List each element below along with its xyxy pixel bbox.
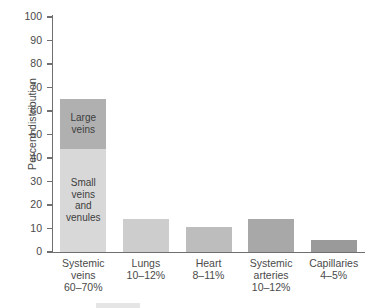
x-axis-label-line: arteries xyxy=(236,270,307,282)
y-axis-tick-label: 100 xyxy=(12,11,42,22)
bar-segment xyxy=(123,219,169,252)
bar-segment: Smallveinsandvenules xyxy=(60,149,106,252)
x-axis-label-line: 60–70% xyxy=(48,282,119,294)
y-axis-tick-label: 0 xyxy=(12,246,42,257)
bar-segment-label: Smallveinsandvenules xyxy=(66,177,100,223)
x-axis-label-heart: Heart8–11% xyxy=(173,258,244,282)
x-axis-label-line: 4–5% xyxy=(298,270,369,282)
bar-segment-label-line: and xyxy=(66,200,100,212)
bar-segment xyxy=(248,219,294,252)
x-axis-label-line: 10–12% xyxy=(111,270,182,282)
bar-systemic-arteries xyxy=(248,219,294,252)
bar-heart xyxy=(186,227,232,252)
x-axis-label-line: veins xyxy=(48,270,119,282)
x-axis-line xyxy=(52,252,365,253)
x-axis-label-line: 8–11% xyxy=(173,270,244,282)
bar-segment-label-line: venules xyxy=(66,212,100,224)
bar-segment-label-line: veins xyxy=(71,124,97,136)
y-axis-tick-label: 50 xyxy=(12,129,42,140)
bar-segment-label-line: Large xyxy=(71,112,97,124)
bar-segment: Largeveins xyxy=(60,99,106,148)
y-axis-tick-label: 40 xyxy=(12,152,42,163)
bar-segment-label-line: Small xyxy=(66,177,100,189)
bar-segment xyxy=(311,240,357,252)
x-axis-category-labels: Systemicveins60–70%Lungs10–12%Heart8–11%… xyxy=(52,258,365,304)
bar-capillaries xyxy=(311,240,357,252)
percent-distribution-bar-chart: Percent distribution 0102030405060708090… xyxy=(0,0,373,308)
y-axis-tick-label: 10 xyxy=(12,223,42,234)
x-axis-label-line: 10–12% xyxy=(236,282,307,294)
bar-systemic-veins: SmallveinsandvenulesLargeveins xyxy=(60,99,106,252)
y-axis-tick-label: 70 xyxy=(12,82,42,93)
bar-lungs xyxy=(123,219,169,252)
bar-segment-label: Largeveins xyxy=(71,112,97,135)
x-axis-label-lungs: Lungs10–12% xyxy=(111,258,182,282)
x-axis-label-capillaries: Capillaries4–5% xyxy=(298,258,369,282)
x-axis-label-systemic-veins: Systemicveins60–70% xyxy=(48,258,119,293)
y-axis-tick-label: 60 xyxy=(12,105,42,116)
bar-segment-label-line: veins xyxy=(66,189,100,201)
y-axis-tick-label: 80 xyxy=(12,58,42,69)
page-edge-artifact xyxy=(96,303,140,308)
bars-area: SmallveinsandvenulesLargeveins xyxy=(52,17,365,252)
bar-segment xyxy=(186,227,232,252)
y-axis-tick-label: 20 xyxy=(12,199,42,210)
x-axis-label-systemic-arteries: Systemicarteries10–12% xyxy=(236,258,307,293)
y-axis-tick-label: 30 xyxy=(12,176,42,187)
y-axis-tick-label: 90 xyxy=(12,35,42,46)
